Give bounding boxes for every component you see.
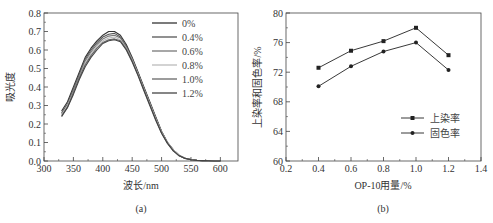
legend-label: 上染率: [430, 112, 460, 124]
x-tick-label: 0.6: [345, 163, 358, 174]
y-tick-label: 0.3: [29, 100, 42, 111]
legend-label: 0%: [182, 18, 195, 29]
x-tick-label: 1.2: [442, 163, 455, 174]
square-marker: [349, 49, 353, 53]
chart-a-x-label: 波长/nm: [123, 179, 159, 191]
chart-b-y-label: 上染率和固色率/%: [251, 46, 263, 127]
x-tick-label: 600: [213, 163, 228, 174]
chart-b-legend: 上染率固色率: [401, 112, 460, 139]
square-marker: [447, 53, 451, 57]
y-tick-label: 0.0: [29, 156, 42, 167]
x-tick-label: 0.4: [312, 163, 325, 174]
series-line-固色率: [319, 43, 449, 87]
square-marker: [382, 39, 386, 43]
legend-circle-marker: [411, 131, 415, 135]
legend-label: 1.0%: [182, 74, 203, 85]
circle-marker: [414, 41, 418, 45]
y-tick-label: 0.2: [29, 119, 42, 130]
x-tick-label: 1.0: [410, 163, 423, 174]
chart-b-y-axis: 606468727680: [273, 8, 290, 167]
y-tick-label: 76: [273, 37, 283, 48]
figure: 300350400450500550600 0.00.10.20.30.40.5…: [0, 0, 493, 223]
circle-marker: [317, 84, 321, 88]
legend-label: 固色率: [430, 127, 460, 139]
y-tick-label: 60: [273, 156, 283, 167]
square-marker: [414, 26, 418, 30]
chart-a-legend: 0%0.4%0.6%0.8%1.0%1.2%: [152, 18, 203, 99]
y-tick-label: 0.6: [29, 45, 42, 56]
legend-label: 0.4%: [182, 32, 203, 43]
chart-a-caption: (a): [135, 203, 146, 215]
y-tick-label: 64: [273, 126, 283, 137]
y-tick-label: 0.5: [29, 63, 42, 74]
series-line-上染率: [319, 28, 449, 68]
chart-a-x-axis: 300350400450500550600: [37, 157, 228, 174]
circle-marker: [447, 68, 451, 72]
chart-b-dyeing-rates: 0.20.40.60.81.01.21.4 606468727680 上染率固色…: [251, 8, 487, 216]
chart-a-absorbance-spectrum: 300350400450500550600 0.00.10.20.30.40.5…: [4, 8, 238, 216]
y-tick-label: 72: [273, 67, 283, 78]
x-tick-label: 0.8: [377, 163, 390, 174]
chart-b-x-axis: 0.20.40.60.81.01.21.4: [280, 157, 488, 174]
y-tick-label: 0.4: [29, 82, 42, 93]
chart-b-series: [317, 26, 451, 88]
legend-label: 0.8%: [182, 60, 203, 71]
chart-a-y-axis: 0.00.10.20.30.40.50.60.70.8: [29, 8, 49, 167]
legend-label: 0.6%: [182, 46, 203, 57]
x-tick-label: 450: [125, 163, 140, 174]
x-tick-label: 400: [95, 163, 110, 174]
chart-b-caption: (b): [377, 203, 389, 215]
chart-b-x-label: OP-10用量/%: [354, 180, 411, 191]
legend-label: 1.2%: [182, 88, 203, 99]
legend-square-marker: [411, 116, 415, 120]
circle-marker: [382, 49, 386, 53]
y-tick-label: 0.1: [29, 137, 42, 148]
y-tick-label: 68: [273, 96, 283, 107]
x-tick-label: 550: [183, 163, 198, 174]
y-tick-label: 80: [273, 8, 283, 19]
y-tick-label: 0.7: [29, 26, 42, 37]
square-marker: [317, 66, 321, 70]
x-tick-label: 1.4: [475, 163, 488, 174]
chart-a-y-label: 吸光度: [4, 72, 16, 102]
circle-marker: [349, 64, 353, 68]
x-tick-label: 350: [66, 163, 81, 174]
x-tick-label: 500: [154, 163, 169, 174]
y-tick-label: 0.8: [29, 8, 42, 19]
